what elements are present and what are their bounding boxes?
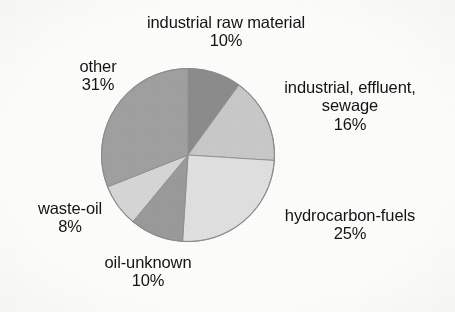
slice-label-industrial-raw-material: industrial raw material 10% [106,13,346,50]
slice-label-other: other 31% [43,57,153,94]
slice-label-name-line2: sewage [252,96,448,114]
slice-label-hydrocarbon-fuels: hydrocarbon-fuels 25% [252,206,448,243]
slice-label-name: oil-unknown [72,253,224,271]
slice-label-industrial-effluent-sewage: industrial, effluent, sewage 16% [252,78,448,133]
pie-chart-figure: industrial raw material 10% industrial, … [0,0,455,312]
slice-label-waste-oil: waste-oil 8% [12,199,128,236]
slice-label-percent: 8% [12,217,128,235]
slice-label-name: hydrocarbon-fuels [252,206,448,224]
slice-label-percent: 16% [252,115,448,133]
slice-label-name: other [43,57,153,75]
slice-label-name: industrial raw material [106,13,346,31]
slice-label-oil-unknown: oil-unknown 10% [72,253,224,290]
slice-label-percent: 10% [72,271,224,289]
slice-label-percent: 31% [43,75,153,93]
slice-label-percent: 10% [106,31,346,49]
slice-label-name: waste-oil [12,199,128,217]
slice-label-name-line1: industrial, effluent, [252,78,448,96]
slice-label-percent: 25% [252,224,448,242]
